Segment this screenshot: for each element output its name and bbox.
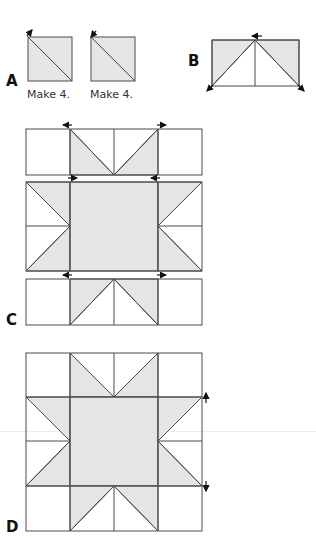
- step-c-bottom-row: [26, 279, 202, 325]
- step-a-hst-right: [91, 37, 135, 81]
- step-d-assembled-block: [26, 353, 202, 531]
- step-c-middle-row: [26, 182, 202, 271]
- arrow-a-right-icon: [91, 31, 96, 37]
- step-b-label: B: [188, 52, 199, 70]
- step-a-caption-right: Make 4.: [90, 88, 133, 101]
- quilt-block-diagram: [0, 0, 316, 538]
- step-c-label: C: [6, 311, 17, 329]
- step-d-label: D: [6, 518, 18, 536]
- arrow-b-left-icon: [207, 85, 213, 91]
- arrow-b-right-icon: [298, 85, 304, 91]
- step-c-top-row: [26, 129, 202, 175]
- step-a-label: A: [6, 72, 18, 90]
- step-b-flying-geese: [212, 40, 299, 86]
- arrow-a-left-icon: [27, 30, 32, 36]
- step-a-hst-left: [28, 37, 72, 81]
- step-a-caption-left: Make 4.: [27, 88, 70, 101]
